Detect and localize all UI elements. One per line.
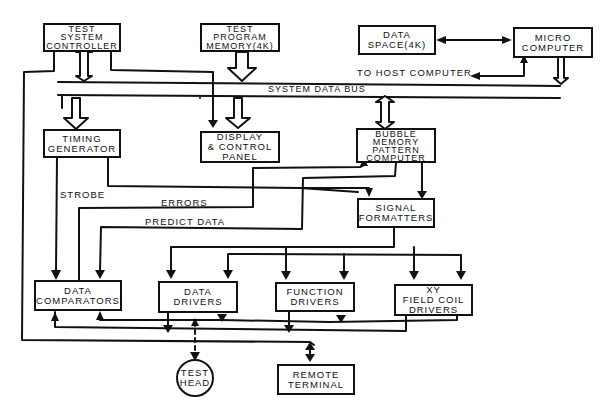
test-system-controller-block: TEST SYSTEM CONTROLLER bbox=[43, 23, 121, 52]
arrowhead bbox=[281, 271, 291, 280]
remote-terminal-block: REMOTE TERMINAL bbox=[277, 364, 355, 395]
bus-to-display-arrow bbox=[226, 98, 250, 128]
timing-to-formatters-line bbox=[108, 158, 358, 192]
controller-to-display-line bbox=[111, 47, 213, 122]
arrowhead bbox=[456, 271, 466, 280]
arrowhead bbox=[223, 270, 233, 279]
memory-to-bus-arrow bbox=[228, 52, 256, 81]
system-data-bus-lower-line bbox=[58, 95, 560, 98]
data-comparators-block: DATA COMPARATORS bbox=[34, 280, 122, 311]
timing-generator-block: TIMING GENERATOR bbox=[43, 129, 121, 158]
arrowhead bbox=[409, 271, 419, 280]
strobe-line bbox=[56, 158, 57, 272]
display-control-panel-block: DISPLAY & CONTROL PANEL bbox=[200, 131, 280, 163]
micro-computer-block: MICRO COMPUTER bbox=[513, 27, 593, 58]
arrowhead bbox=[51, 270, 61, 280]
strobe-label: STROBE bbox=[60, 189, 105, 200]
arrowhead bbox=[208, 120, 218, 128]
arrowhead bbox=[51, 312, 59, 321]
micro-to-host-line bbox=[478, 57, 524, 76]
data-drivers-block: DATA DRIVERS bbox=[158, 281, 238, 313]
to-host-computer-label: TO HOST COMPUTER bbox=[357, 67, 472, 78]
arrowhead bbox=[166, 270, 176, 279]
data-space-block: DATA SPACE(4K) bbox=[358, 25, 436, 55]
controller-bus-double-arrow bbox=[76, 48, 92, 81]
arrowhead bbox=[96, 311, 104, 320]
errors-label: ERRORS bbox=[161, 197, 208, 208]
arrowhead bbox=[502, 36, 512, 44]
test-head-block: TEST HEAD bbox=[176, 359, 214, 397]
bus-to-timing-arrow bbox=[64, 98, 88, 129]
xy-field-coil-drivers-block: XY FIELD COIL DRIVERS bbox=[394, 284, 473, 316]
arrowhead bbox=[436, 36, 446, 44]
arrowhead bbox=[365, 188, 373, 197]
bubble-memory-pattern-computer-block: BUBBLE MEMORY PATTERN COMPUTER bbox=[356, 128, 436, 163]
block-diagram: TEST SYSTEM CONTROLLER TEST PROGRAM MEMO… bbox=[0, 0, 610, 411]
formatters-distribution-line bbox=[171, 228, 394, 272]
system-data-bus-label: SYSTEM DATA BUS bbox=[268, 84, 366, 94]
predict-data-label: PREDICT DATA bbox=[145, 216, 225, 227]
bus-bubble-double-arrow bbox=[376, 96, 394, 129]
diagram-connections bbox=[0, 0, 610, 411]
test-program-memory-block: TEST PROGRAM MEMORY(4K) bbox=[200, 23, 280, 52]
arrowhead bbox=[95, 270, 105, 279]
function-drivers-block: FUNCTION DRIVERS bbox=[275, 282, 355, 312]
signal-formatters-block: SIGNAL FORMATTERS bbox=[357, 198, 435, 228]
